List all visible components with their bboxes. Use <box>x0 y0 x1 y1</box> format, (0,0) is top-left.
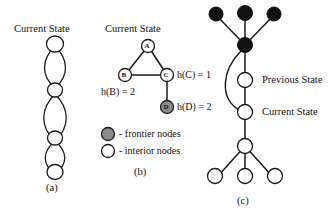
legend-item-frontier-text: - frontier nodes <box>119 129 181 139</box>
panel-a-node-1 <box>47 36 64 52</box>
panel-c-graph <box>208 6 283 184</box>
legend-swatches <box>102 128 115 158</box>
panel-a-graph <box>44 36 67 180</box>
frontier-node-swatch <box>102 128 115 141</box>
panel-c-caption: (c) <box>237 196 249 207</box>
panel-c-node-top-left <box>209 7 223 21</box>
panel-c-node-branch <box>238 139 253 154</box>
figure-root: .edge { stroke: #1a1a1a; stroke-width: 1… <box>0 0 329 212</box>
legend-item-interior-text: - interior nodes <box>119 146 180 156</box>
panel-b-node-D-label: D <box>164 104 169 111</box>
heuristic-label-C: h(C) = 1 <box>177 70 211 80</box>
panel-c-node-child-right <box>268 169 283 184</box>
panel-c-node-junction <box>238 38 253 53</box>
panel-a-node-2 <box>48 83 63 97</box>
panel-b-node-A-label: A <box>145 43 150 50</box>
heuristic-label-D: h(D) = 2 <box>177 102 212 112</box>
interior-node-swatch <box>102 145 115 158</box>
panel-c-node-top-mid <box>238 6 253 21</box>
panel-a-caption: (a) <box>46 183 58 194</box>
panel-c-node-child-left <box>208 169 223 184</box>
panel-a-node-4 <box>47 165 63 180</box>
panel-c-previous-state-label: Previous State <box>262 75 322 86</box>
panel-a-current-state-label: Current State <box>14 24 70 35</box>
panel-c-current-state-label: Current State <box>262 107 318 118</box>
panel-b-node-B-label: B <box>122 72 127 79</box>
panel-c-node-previous-state <box>238 73 253 88</box>
panel-c-node-top-right <box>267 7 281 21</box>
panel-c-node-current-state <box>238 105 253 120</box>
heuristic-label-B: h(B) = 2 <box>101 87 135 97</box>
panel-a-node-3 <box>48 131 63 145</box>
panel-c-node-child-mid <box>238 169 253 184</box>
panel-b-current-state-label: Current State <box>105 24 161 35</box>
panel-b-caption: (b) <box>134 167 146 178</box>
panel-b-node-C-label: C <box>164 72 169 79</box>
